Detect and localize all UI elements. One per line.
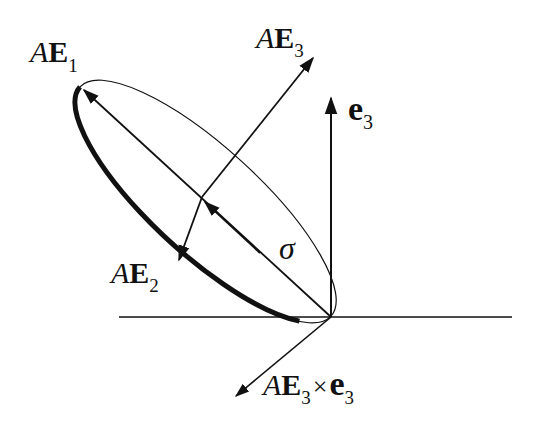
label-sigma: σ xyxy=(279,230,296,266)
thick-boundary-arc xyxy=(44,87,316,342)
label-ae1: AE1 xyxy=(28,35,78,76)
ae2-arrow xyxy=(179,197,202,260)
label-ae3: AE3 xyxy=(254,21,304,61)
label-ae2: AE2 xyxy=(109,256,159,296)
label-e3: e3 xyxy=(348,90,373,133)
diagram-canvas: AE1 AE3 e3 σ AE2 AE3×e3 xyxy=(0,0,540,428)
sigma-arrow xyxy=(205,202,260,253)
label-cross-product: AE3×e3 xyxy=(261,365,354,408)
